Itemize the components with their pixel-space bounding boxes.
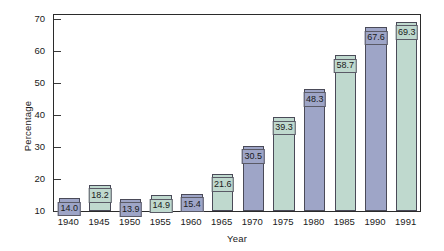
bar-value-label: 48.3 <box>303 92 326 107</box>
bar: 69.3 <box>396 22 417 211</box>
x-tick-label: 1990 <box>364 216 385 227</box>
plot-area: 10203040506070 14.018.213.914.915.421.63… <box>53 14 421 212</box>
x-tick-label: 1985 <box>334 216 355 227</box>
x-tick-label: 1991 <box>395 216 416 227</box>
y-tick-label: 60 <box>34 45 45 56</box>
x-tick-label: 1940 <box>58 216 79 227</box>
y-tick-label: 30 <box>34 141 45 152</box>
x-tick-label: 1970 <box>242 216 263 227</box>
x-tick-label: 1965 <box>211 216 232 227</box>
bar: 21.6 <box>212 174 233 211</box>
x-tick-label: 1945 <box>88 216 109 227</box>
bar-value-label: 39.3 <box>273 121 296 136</box>
bar: 18.2 <box>89 185 110 211</box>
y-tick-label: 70 <box>34 13 45 24</box>
bar-value-label: 67.6 <box>365 31 388 46</box>
bar: 48.3 <box>304 89 325 211</box>
bar-value-label: 21.6 <box>211 177 234 192</box>
bar-value-label: 18.2 <box>89 188 112 203</box>
bar-value-label: 15.4 <box>181 197 204 212</box>
bar: 67.6 <box>365 27 386 211</box>
bar-value-label: 69.3 <box>395 25 418 40</box>
y-tick-label: 10 <box>34 205 45 216</box>
y-tick-label: 20 <box>34 173 45 184</box>
bar: 14.0 <box>59 198 80 211</box>
y-axis-title: Percentage <box>22 100 33 151</box>
bar-value-label: 13.9 <box>119 202 142 217</box>
bar-value-label: 14.9 <box>150 199 173 214</box>
x-axis-title: Year <box>53 233 421 244</box>
y-tick-label: 40 <box>34 109 45 120</box>
bar: 39.3 <box>273 117 294 211</box>
x-tick-label: 1955 <box>150 216 171 227</box>
bar-value-label: 58.7 <box>334 59 357 74</box>
x-tick-label: 1960 <box>180 216 201 227</box>
bar-value-label: 14.0 <box>58 202 81 217</box>
x-tick-label: 1980 <box>303 216 324 227</box>
x-tick-label: 1975 <box>272 216 293 227</box>
bar-value-label: 30.5 <box>242 149 265 164</box>
bar: 13.9 <box>120 199 141 211</box>
y-tick-label: 50 <box>34 77 45 88</box>
x-tick-label: 1950 <box>119 216 140 227</box>
bars-group: 14.018.213.914.915.421.630.539.348.358.7… <box>54 15 420 211</box>
bar: 14.9 <box>151 195 172 211</box>
bar: 15.4 <box>181 194 202 211</box>
bar: 58.7 <box>335 55 356 211</box>
bar: 30.5 <box>243 146 264 211</box>
bar-chart: Percentage 10203040506070 14.018.213.914… <box>0 0 444 251</box>
